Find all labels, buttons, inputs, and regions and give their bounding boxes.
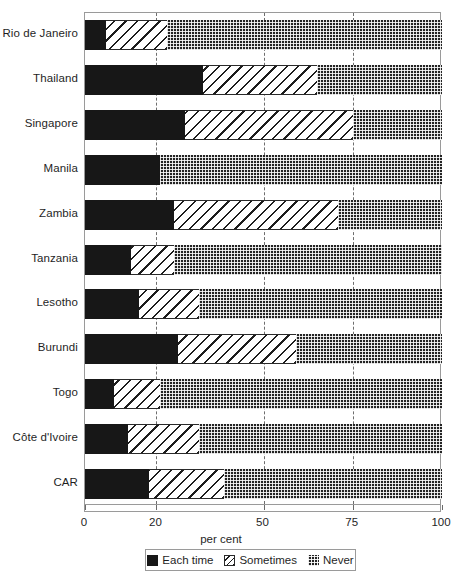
legend-swatch-never-icon <box>308 555 319 566</box>
bar-segment-sometimes <box>185 110 353 140</box>
bar-segment-never <box>338 200 442 230</box>
bar-segment-sometimes <box>114 379 160 409</box>
y-axis-label: Singapore <box>0 117 78 129</box>
bar-row <box>85 289 440 319</box>
bar-row <box>85 65 440 95</box>
bar-row <box>85 200 440 230</box>
x-axis <box>84 505 441 512</box>
bar-segment-each-time <box>85 155 160 185</box>
x-axis-tick-label: 0 <box>81 516 87 528</box>
legend-label-sometimes: Sometimes <box>239 554 297 566</box>
bar-row <box>85 424 440 454</box>
bar-segment-never <box>167 20 442 50</box>
chart-legend: Each time Sometimes Never <box>145 549 356 571</box>
bar-segment-each-time <box>85 110 185 140</box>
y-axis-label: Togo <box>0 386 78 398</box>
x-axis-tick-label: 20 <box>149 516 162 528</box>
x-axis-tick-label: 75 <box>345 516 358 528</box>
legend-item-each-time: Each time <box>147 554 213 566</box>
bar-segment-sometimes <box>131 245 174 275</box>
bar-segment-never <box>199 289 442 319</box>
bar-segment-never <box>353 110 442 140</box>
x-axis-tick-label: 50 <box>256 516 269 528</box>
bar-segment-each-time <box>85 469 149 499</box>
bar-row <box>85 334 440 364</box>
bar-segment-sometimes <box>203 65 317 95</box>
bar-segment-sometimes <box>178 334 296 364</box>
y-axis-label: Rio de Janeiro <box>0 27 78 39</box>
bar-segment-each-time <box>85 20 106 50</box>
x-axis-tick <box>264 505 265 510</box>
bar-segment-never <box>174 245 442 275</box>
bar-row <box>85 379 440 409</box>
y-axis-label: Zambia <box>0 207 78 219</box>
bar-segment-never <box>224 469 442 499</box>
y-axis-label: CAR <box>0 476 78 488</box>
legend-item-never: Never <box>308 554 354 566</box>
bar-row <box>85 110 440 140</box>
bar-segment-each-time <box>85 289 139 319</box>
legend-label-each-time: Each time <box>162 554 213 566</box>
legend-swatch-sometimes-icon <box>224 555 235 566</box>
bar-segment-sometimes <box>128 424 199 454</box>
y-axis-label: Côte d'Ivoire <box>0 431 78 443</box>
y-axis-label: Tanzania <box>0 252 78 264</box>
y-axis-label: Burundi <box>0 341 78 353</box>
x-axis-tick <box>353 505 354 510</box>
bar-row <box>85 245 440 275</box>
bar-segment-never <box>317 65 442 95</box>
bar-segment-sometimes <box>149 469 224 499</box>
x-axis-tick-label: 100 <box>431 516 450 528</box>
y-axis-label: Manila <box>0 162 78 174</box>
stacked-bar-chart: Rio de JaneiroThailandSingaporeManilaZam… <box>0 0 462 582</box>
y-axis-label: Thailand <box>0 72 78 84</box>
bar-segment-never <box>160 379 442 409</box>
bar-segment-each-time <box>85 65 203 95</box>
bar-row <box>85 155 440 185</box>
x-axis-title-text: per cent <box>200 533 242 545</box>
x-axis-tick <box>85 505 86 510</box>
x-axis-title: per cent <box>0 533 462 545</box>
legend-swatch-each-time-icon <box>147 555 158 566</box>
bar-segment-each-time <box>85 245 131 275</box>
bar-segment-each-time <box>85 379 114 409</box>
x-axis-tick <box>156 505 157 510</box>
bar-segment-each-time <box>85 334 178 364</box>
bar-segment-each-time <box>85 424 128 454</box>
legend-item-sometimes: Sometimes <box>224 554 297 566</box>
bar-row <box>85 20 440 50</box>
bar-segment-never <box>296 334 442 364</box>
x-axis-tick <box>442 505 443 510</box>
y-axis-label: Lesotho <box>0 296 78 308</box>
plot-area <box>84 12 441 505</box>
legend-label-never: Never <box>323 554 354 566</box>
bar-segment-each-time <box>85 200 174 230</box>
bar-segment-sometimes <box>106 20 167 50</box>
bar-segment-sometimes <box>174 200 338 230</box>
bar-segment-never <box>199 424 442 454</box>
bar-row <box>85 469 440 499</box>
bar-segment-never <box>160 155 442 185</box>
bar-segment-sometimes <box>139 289 200 319</box>
